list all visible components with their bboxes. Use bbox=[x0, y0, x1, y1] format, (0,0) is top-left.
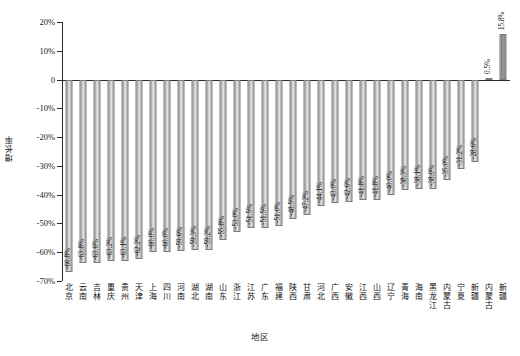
bar-value-label: -44.1% bbox=[317, 182, 324, 203]
bar-value-label: -51.0% bbox=[275, 202, 282, 223]
bar-slot: -28.6% bbox=[468, 22, 482, 281]
x-tick-label: 陕西 bbox=[288, 283, 298, 301]
x-tick-label: 黑龙江 bbox=[428, 283, 438, 310]
x-tick-label: 宁夏 bbox=[456, 283, 466, 301]
bar-value-label: -63.2% bbox=[107, 237, 114, 258]
x-tick-label: 福建 bbox=[274, 283, 284, 301]
bar-slot: 15.8% bbox=[496, 22, 510, 281]
y-axis-title: 增长率 bbox=[6, 135, 20, 162]
y-tick-label: -30% bbox=[37, 162, 55, 171]
bar-slot: -35.0% bbox=[440, 22, 454, 281]
bar-value-label: -35.0% bbox=[443, 156, 450, 177]
x-tick-label: 青海 bbox=[400, 283, 410, 301]
bar-slot: -41.8% bbox=[370, 22, 384, 281]
bar-slot: -42.6% bbox=[342, 22, 356, 281]
bar-slot: -38.1% bbox=[412, 22, 426, 281]
x-tick-label: 海南 bbox=[414, 283, 424, 301]
y-tick-mark bbox=[57, 80, 62, 81]
y-tick-mark bbox=[57, 281, 62, 282]
x-tick-label: 河南 bbox=[176, 283, 186, 301]
bar-value-label: -38.1% bbox=[415, 165, 422, 186]
y-tick-label: -70% bbox=[37, 277, 55, 286]
bar-slot: -59.6% bbox=[174, 22, 188, 281]
bar bbox=[122, 80, 129, 262]
x-tick-label: 广东 bbox=[260, 283, 270, 301]
bar-slot: -44.1% bbox=[314, 22, 328, 281]
bar-value-label: -38.3% bbox=[401, 166, 408, 187]
bar-slot: -41.8% bbox=[356, 22, 370, 281]
bar-value-label: -47.2% bbox=[303, 191, 310, 212]
bar-slot: -53.0% bbox=[230, 22, 244, 281]
bar-value-label: -40.0% bbox=[387, 171, 394, 192]
x-tick-label: 广西 bbox=[330, 283, 340, 301]
y-tick-mark bbox=[57, 108, 62, 109]
bar bbox=[486, 78, 493, 80]
y-tick-mark bbox=[57, 51, 62, 52]
x-tick-label: 四川 bbox=[162, 283, 172, 301]
y-tick-label: 20% bbox=[39, 18, 55, 27]
bar-slot: -59.3% bbox=[188, 22, 202, 281]
bar-value-label: -53.0% bbox=[233, 208, 240, 229]
x-tick-label: 吉林 bbox=[92, 283, 102, 301]
bar-slot: -38.0% bbox=[426, 22, 440, 281]
bar-value-label: -62.2% bbox=[135, 235, 142, 256]
y-tick-label: 10% bbox=[39, 47, 55, 56]
bar-value-label: -48.5% bbox=[289, 195, 296, 216]
figure-container: 增长率 -66.8%-63.8%-63.6%-63.2%-63.1%-62.2%… bbox=[0, 0, 520, 356]
x-tick-label: 贵州 bbox=[120, 283, 130, 301]
bar-slot: -43.0% bbox=[328, 22, 342, 281]
y-tick-mark bbox=[57, 223, 62, 224]
bar-value-label: -59.6% bbox=[177, 227, 184, 248]
bar-value-label: -31.2% bbox=[457, 145, 464, 166]
bar bbox=[206, 80, 213, 250]
x-tick-label: 内蒙古 bbox=[442, 283, 452, 310]
bar-slot: -40.0% bbox=[384, 22, 398, 281]
y-tick-mark bbox=[57, 22, 62, 23]
bar-slot: -63.8% bbox=[76, 22, 90, 281]
y-tick-label: -40% bbox=[37, 190, 55, 199]
bar-slot: -60.0% bbox=[160, 22, 174, 281]
bar-slot: -60.0% bbox=[146, 22, 160, 281]
bar-series: -66.8%-63.8%-63.6%-63.2%-63.1%-62.2%-60.… bbox=[62, 22, 510, 281]
bar-value-label: -43.0% bbox=[331, 179, 338, 200]
bar-slot: -55.8% bbox=[216, 22, 230, 281]
x-tick-label: 江西 bbox=[358, 283, 368, 301]
bar-value-label: -28.6% bbox=[471, 138, 478, 159]
bar-value-label: -41.8% bbox=[373, 176, 380, 197]
x-tick-label: 天津 bbox=[134, 283, 144, 301]
bar-slot: -66.8% bbox=[62, 22, 76, 281]
bar bbox=[108, 80, 115, 262]
x-tick-label: 山东 bbox=[218, 283, 228, 301]
x-tick-label: 内蒙古 bbox=[484, 283, 494, 310]
bar bbox=[136, 80, 143, 259]
bar-slot: 0.5% bbox=[482, 22, 496, 281]
bar-slot: -63.1% bbox=[118, 22, 132, 281]
y-tick-label: -20% bbox=[37, 133, 55, 142]
bar-slot: -62.2% bbox=[132, 22, 146, 281]
bar-slot: -51.5% bbox=[258, 22, 272, 281]
bar bbox=[66, 80, 73, 272]
x-tick-label: 湖北 bbox=[190, 283, 200, 301]
bar-value-label: -51.5% bbox=[247, 204, 254, 225]
y-tick-mark bbox=[57, 252, 62, 253]
y-tick-label: 0 bbox=[51, 75, 55, 84]
x-tick-label: 甘肃 bbox=[302, 283, 312, 301]
bar-value-label: -63.6% bbox=[93, 239, 100, 260]
bar bbox=[94, 80, 101, 263]
x-tick-label: 新疆 bbox=[470, 283, 480, 301]
bar-value-label: -51.5% bbox=[261, 204, 268, 225]
bar-value-label: -63.1% bbox=[121, 237, 128, 258]
x-tick-label: 安徽 bbox=[344, 283, 354, 301]
bar-slot: -63.6% bbox=[90, 22, 104, 281]
x-tick-label: 浙江 bbox=[232, 283, 242, 301]
bar-slot: -51.0% bbox=[272, 22, 286, 281]
bar-value-label: 15.8% bbox=[499, 12, 506, 31]
y-tick-mark bbox=[57, 137, 62, 138]
y-tick-mark bbox=[57, 166, 62, 167]
bar-slot: -63.2% bbox=[104, 22, 118, 281]
bar-slot: -48.5% bbox=[286, 22, 300, 281]
y-tick-label: -50% bbox=[37, 219, 55, 228]
x-tick-label: 湖南 bbox=[204, 283, 214, 301]
bar-value-label: -59.2% bbox=[205, 226, 212, 247]
x-tick-label: 新疆 bbox=[498, 283, 508, 301]
